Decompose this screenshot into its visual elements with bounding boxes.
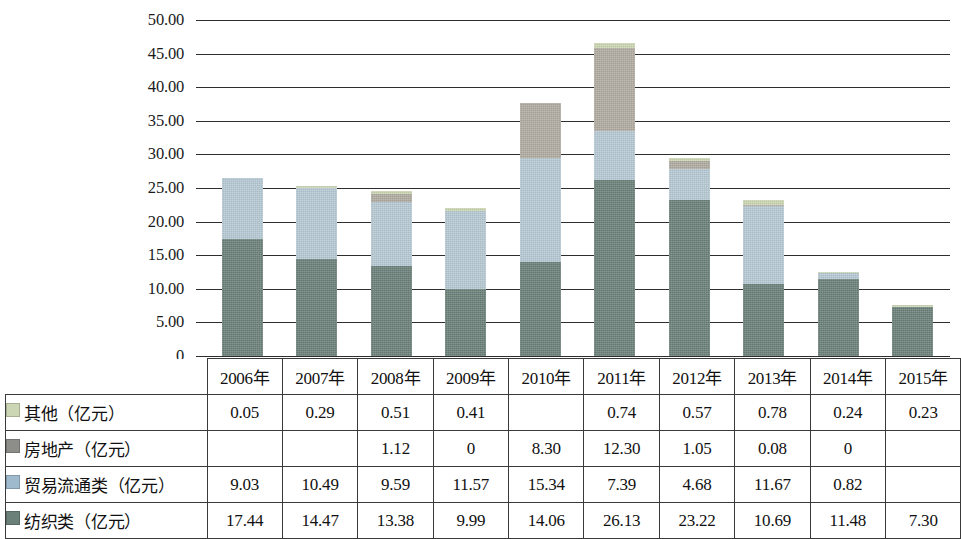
table-cell [886,467,961,503]
table-year-header: 2011年 [584,359,659,395]
table-cell: 10.49 [282,467,357,503]
y-axis-tick-label: 50.00 [148,12,184,28]
table-header: 2006年2007年2008年2009年2010年2011年2012年2013年… [6,359,961,395]
bar-segment [445,211,486,289]
table-corner-cell [6,359,208,395]
y-axis-tick-label: 20.00 [148,214,184,230]
table-year-header: 2006年 [207,359,282,395]
table-row: 纺织类（亿元）17.4414.4713.389.9914.0626.1323.2… [6,503,961,539]
bar-column [280,0,355,356]
table-cell: 14.47 [282,503,357,539]
table-cell: 9.99 [433,503,508,539]
bar-column [503,0,578,356]
y-axis-tick-label: 5.00 [156,314,184,330]
table-row: 房地产（亿元）1.1208.3012.301.050.080 [6,431,961,467]
bar-segment [594,131,635,181]
bar-segment [445,289,486,356]
bar-segment [222,239,263,356]
table-cell: 0.78 [735,395,810,431]
axis-tick [196,356,205,357]
table-year-header: 2013年 [735,359,810,395]
bar-segment [594,48,635,131]
bar-column [876,0,951,356]
y-axis: 50.0045.0040.0035.0030.0025.0020.0015.00… [0,0,196,358]
table-cell: 0.51 [358,395,433,431]
bar-stack[interactable] [222,178,263,356]
table-cell: 9.03 [207,467,282,503]
table-cell [509,395,584,431]
table-cell: 12.30 [584,431,659,467]
legend-swatch-trade [6,475,20,489]
bar-segment [371,266,412,356]
table-cell: 0.57 [659,395,734,431]
bar-segment [520,158,561,261]
table-cell: 0 [433,431,508,467]
bar-segment [669,200,710,356]
plot-area [196,0,950,358]
table-cell: 1.05 [659,431,734,467]
bar-segment [818,279,859,356]
bar-stack[interactable] [669,158,710,356]
table-cell: 11.48 [810,503,885,539]
table-cell: 0 [810,431,885,467]
table-row-label: 纺织类（亿元） [6,503,208,539]
bar-segment [371,202,412,266]
table-cell [886,431,961,467]
bar-stack[interactable] [892,305,933,356]
table-cell: 26.13 [584,503,659,539]
y-axis-tick-label: 35.00 [148,113,184,129]
bar-stack[interactable] [296,186,337,356]
table-cell: 13.38 [358,503,433,539]
table-year-header: 2012年 [659,359,734,395]
table-row-label: 房地产（亿元） [6,431,208,467]
y-axis-tick-label: 40.00 [148,79,184,95]
bar-column [801,0,876,356]
bar-stack[interactable] [371,191,412,356]
table-cell [282,431,357,467]
table-row: 贸易流通类（亿元）9.0310.499.5911.5715.347.394.68… [6,467,961,503]
table-cell: 7.30 [886,503,961,539]
bar-stack[interactable] [445,208,486,356]
table-cell: 23.22 [659,503,734,539]
table-row: 其他（亿元）0.050.290.510.410.740.570.780.240.… [6,395,961,431]
table-cell: 14.06 [509,503,584,539]
bar-segment [520,262,561,356]
bar-column [429,0,504,356]
table-year-header: 2014年 [810,359,885,395]
data-table: 2006年2007年2008年2009年2010年2011年2012年2013年… [5,358,961,539]
y-axis-tick-label: 30.00 [148,146,184,162]
bar-column [205,0,280,356]
bar-segment [669,169,710,200]
bar-segment [520,103,561,159]
y-axis-tick-label: 10.00 [148,281,184,297]
table-cell: 10.69 [735,503,810,539]
table-year-header: 2009年 [433,359,508,395]
legend-swatch-textile [6,511,20,525]
bar-segment [892,307,933,356]
table-cell: 0.24 [810,395,885,431]
bar-segment [669,161,710,168]
table-year-header: 2010年 [509,359,584,395]
series-label-text: 房地产（亿元） [24,441,141,460]
table-year-header: 2008年 [358,359,433,395]
series-label-text: 贸易流通类（亿元） [24,477,174,496]
bar-stack[interactable] [818,272,859,356]
table-cell: 0.41 [433,395,508,431]
bar-stack[interactable] [594,43,635,356]
table-cell: 4.68 [659,467,734,503]
y-axis-tick-label: 25.00 [148,180,184,196]
table-cell: 11.57 [433,467,508,503]
table-cell: 15.34 [509,467,584,503]
bar-series-container [205,0,950,356]
bar-stack[interactable] [743,200,784,356]
series-label-text: 其他（亿元） [24,405,124,424]
x-axis-baseline [205,356,950,357]
bar-segment [296,259,337,356]
table-row-label: 其他（亿元） [6,395,208,431]
bar-segment [371,194,412,202]
bar-segment [743,206,784,284]
table-cell: 0.29 [282,395,357,431]
bar-stack[interactable] [520,103,561,356]
table-body: 其他（亿元）0.050.290.510.410.740.570.780.240.… [6,395,961,539]
table-cell: 11.67 [735,467,810,503]
